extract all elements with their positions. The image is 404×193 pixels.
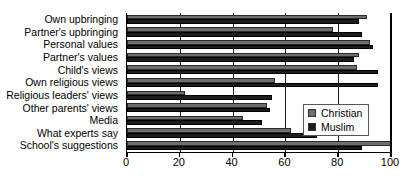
category-label: Own upbringing xyxy=(0,13,122,26)
bar-muslim xyxy=(127,70,378,75)
category-label: Own religious views xyxy=(0,76,122,89)
x-tick-label: 40 xyxy=(225,157,237,168)
bar-muslim xyxy=(127,45,373,50)
category-label: Media xyxy=(0,114,122,127)
bar-muslim xyxy=(127,146,362,151)
bar-muslim xyxy=(127,120,262,125)
category-label: Other parents' views xyxy=(0,101,122,114)
bar-group xyxy=(127,13,391,26)
x-tick-label: 60 xyxy=(278,157,290,168)
bar-group xyxy=(127,38,391,51)
x-tick-label: 100 xyxy=(381,157,399,168)
legend-swatch-icon xyxy=(308,123,316,131)
category-axis: Own upbringingPartner's upbringingPerson… xyxy=(0,13,122,152)
bar-group xyxy=(127,139,391,152)
bar-group xyxy=(127,51,391,64)
category-label: Partner's values xyxy=(0,51,122,64)
category-label: Religious leaders' views xyxy=(0,89,122,102)
category-label: What experts say xyxy=(0,127,122,140)
x-axis: 020406080100 xyxy=(126,153,390,169)
legend: ChristianMuslim xyxy=(303,104,369,136)
category-label: Personal values xyxy=(0,38,122,51)
legend-label: Muslim xyxy=(321,122,354,133)
bar-muslim xyxy=(127,83,378,88)
bar-chart: Own upbringingPartner's upbringingPerson… xyxy=(0,0,404,193)
bar-muslim xyxy=(127,57,354,62)
bar-group xyxy=(127,89,391,102)
bar-muslim xyxy=(127,19,359,24)
legend-item-muslim: Muslim xyxy=(308,122,362,133)
legend-label: Christian xyxy=(321,108,362,119)
bar-muslim xyxy=(127,133,317,138)
bar-muslim xyxy=(127,32,362,37)
bar-muslim xyxy=(127,95,272,100)
x-tick-label: 20 xyxy=(173,157,185,168)
category-label: School's suggestions xyxy=(0,139,122,152)
category-label: Partner's upbringing xyxy=(0,26,122,39)
bar-group xyxy=(127,64,391,77)
bar-group xyxy=(127,26,391,39)
right-axis-spine xyxy=(390,13,392,153)
legend-swatch-icon xyxy=(308,109,316,117)
x-tick-label: 0 xyxy=(123,157,129,168)
x-tick-label: 80 xyxy=(331,157,343,168)
bar-muslim xyxy=(127,108,270,113)
bar-group xyxy=(127,76,391,89)
legend-item-christian: Christian xyxy=(308,108,362,119)
category-label: Child's views xyxy=(0,64,122,77)
